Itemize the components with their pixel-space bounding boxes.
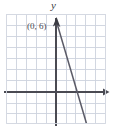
coordinate-plane-graph: y (0, 6) bbox=[0, 0, 113, 126]
y-axis-label: y bbox=[51, 0, 56, 11]
line-arrow-icon bbox=[53, 17, 61, 27]
x-axis bbox=[4, 89, 110, 96]
plotted-line bbox=[53, 17, 87, 124]
graph-canvas bbox=[0, 0, 113, 126]
x-axis-arrow-icon bbox=[103, 89, 110, 96]
point-label-y-intercept: (0, 6) bbox=[27, 21, 47, 32]
